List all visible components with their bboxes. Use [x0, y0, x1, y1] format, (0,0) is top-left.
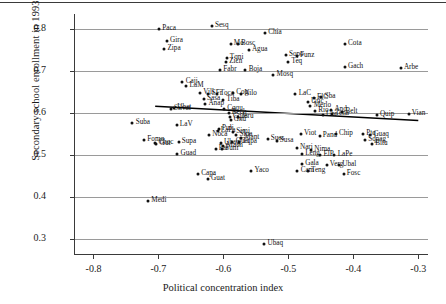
data-point [247, 48, 250, 51]
data-point-label: Bitu [375, 140, 387, 147]
data-point [371, 142, 374, 145]
x-tick-label: -0.5 [266, 263, 310, 274]
data-point-label: Guat [211, 176, 225, 183]
data-point [175, 124, 178, 127]
data-point-label: Agua [252, 46, 268, 53]
y-tick-mark [70, 29, 75, 30]
data-point [199, 91, 202, 94]
data-point [237, 115, 240, 118]
data-point [176, 152, 179, 155]
y-tick-mark [70, 239, 75, 240]
data-point-label: Teng [311, 168, 325, 175]
y-gridline [74, 29, 428, 30]
data-point-label: Funi [225, 145, 238, 152]
data-point [206, 178, 209, 181]
data-point [342, 173, 345, 176]
x-tick-mark [288, 254, 289, 259]
y-tick-mark [70, 113, 75, 114]
y-gridline [74, 155, 428, 156]
data-point-label: Ubaq [268, 240, 284, 247]
x-axis-line [74, 254, 428, 255]
data-point [131, 122, 134, 125]
data-point [181, 80, 184, 83]
x-tick-label: -0.3 [396, 263, 440, 274]
data-point [229, 118, 232, 121]
x-tick-mark [158, 254, 159, 259]
data-point [147, 199, 150, 202]
data-point [236, 43, 239, 46]
data-point [224, 60, 227, 63]
data-point-label: Zipa [167, 45, 180, 52]
data-point [284, 54, 287, 57]
data-point [343, 43, 346, 46]
data-point-label: Suba [136, 120, 150, 127]
data-point-label: Tiba [227, 96, 240, 103]
data-point [202, 97, 205, 100]
data-point [333, 153, 336, 156]
data-point [197, 172, 200, 175]
data-point-label: Susa [280, 138, 294, 145]
data-point [227, 111, 230, 114]
data-point [343, 66, 346, 69]
data-point [225, 56, 228, 59]
y-tick-label: 0.6 [6, 106, 46, 117]
data-point [300, 152, 303, 155]
data-point [362, 133, 365, 136]
data-point-label: Gut [160, 140, 171, 147]
y-gridline [74, 197, 428, 198]
data-point [204, 103, 207, 106]
data-point-label: Vian [412, 110, 426, 117]
data-point-label: Pand [323, 132, 337, 139]
y-tick-label: 0.3 [6, 232, 46, 243]
data-point-label: Paca [162, 25, 176, 32]
data-point-label: LaC [299, 91, 311, 98]
data-point [296, 169, 299, 172]
data-point-label: Anap [208, 100, 224, 107]
data-point-label: Chip [339, 130, 353, 137]
data-point [295, 147, 298, 150]
data-point-label: LaPa [221, 128, 236, 135]
y-tick-label: 0.4 [6, 190, 46, 201]
chart-figure: Secondary school enrollment in 1993 Poli… [0, 0, 446, 304]
data-point [210, 25, 213, 28]
data-point [313, 110, 316, 113]
data-point [244, 68, 247, 71]
x-tick-label: -0.7 [136, 263, 180, 274]
data-point [275, 140, 278, 143]
data-point [309, 104, 312, 107]
data-point [185, 85, 188, 88]
data-point [229, 43, 232, 46]
data-point [263, 31, 266, 34]
data-point [407, 112, 410, 115]
data-point-label: Supa [182, 139, 196, 146]
data-point [338, 164, 341, 167]
data-point-label: LaM [190, 83, 204, 90]
data-point [169, 108, 172, 111]
data-point [319, 154, 322, 157]
data-point [294, 93, 297, 96]
data-point [235, 133, 238, 136]
data-point-label: LaPe [338, 151, 353, 158]
data-point-label: Mosq [277, 71, 293, 78]
y-tick-mark [70, 71, 75, 72]
x-tick-mark [418, 254, 419, 259]
x-axis-label: Political concentration index [0, 282, 446, 293]
y-tick-label: 0.5 [6, 148, 46, 159]
x-tick-mark [353, 254, 354, 259]
plot-area: 0.80.70.60.50.40.3-0.8-0.7-0.6-0.5-0.4-0… [74, 14, 428, 254]
data-point-label: Guad [180, 150, 196, 157]
data-point-label: Nilo [244, 91, 257, 98]
x-tick-label: -0.6 [201, 263, 245, 274]
data-point-label: Sba [325, 94, 336, 101]
data-point [158, 27, 161, 30]
data-point [263, 242, 266, 245]
data-point-label: Viot [304, 130, 316, 137]
data-point [318, 134, 321, 137]
data-point [363, 139, 366, 142]
x-tick-label: -0.4 [331, 263, 375, 274]
data-point-label: Fabr [223, 66, 236, 73]
data-point [306, 170, 309, 173]
data-point [299, 133, 302, 136]
data-point [287, 60, 290, 63]
data-point [221, 147, 224, 150]
